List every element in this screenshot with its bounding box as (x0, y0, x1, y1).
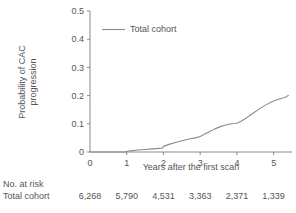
x-axis-title: Years after the first scan (143, 162, 240, 172)
x-tick-label: 5 (271, 158, 276, 168)
risk-value: 4,531 (152, 191, 175, 201)
risk-row-label: Total cohort (3, 191, 50, 201)
y-tick-label: 0 (79, 147, 84, 157)
risk-table-title: No. at risk (0, 178, 296, 190)
risk-value: 1,339 (262, 191, 285, 201)
risk-table-row: Total cohort 6,268 5,790 4,531 3,363 2,3… (0, 190, 296, 204)
y-tick-label: 0.3 (71, 63, 84, 73)
risk-value: 5,790 (115, 191, 138, 201)
x-tick-label: 1 (124, 158, 129, 168)
risk-value: 2,371 (226, 191, 249, 201)
legend-label-total-cohort: Total cohort (130, 24, 177, 34)
chart-figure: Probability of CAC progression 00.10.20.… (0, 0, 296, 213)
y-tick-label: 0.5 (71, 6, 84, 16)
y-tick-label: 0.4 (71, 34, 84, 44)
y-tick-label: 0.2 (71, 91, 84, 101)
y-tick-label: 0.1 (71, 119, 84, 129)
risk-value: 6,268 (79, 191, 102, 201)
y-axis-tick-labels: 00.10.20.30.40.5 (71, 6, 84, 157)
risk-table: No. at risk Total cohort 6,268 5,790 4,5… (0, 178, 296, 204)
series-line-total-cohort (90, 96, 288, 152)
risk-value: 3,363 (189, 191, 212, 201)
x-tick-label: 0 (87, 158, 92, 168)
